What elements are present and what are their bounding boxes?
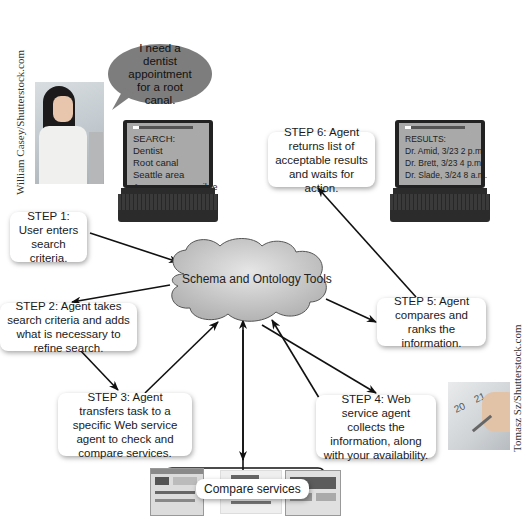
search-laptop-palmrest [118, 210, 218, 222]
search-line: Dentist [133, 145, 203, 157]
photo-laptop-edge [89, 132, 103, 184]
step-3-text: STEP 3: Agent transfers task to a specif… [64, 390, 186, 460]
search-laptop-screen: SEARCH: Dentist Root canal Seattle area … [127, 123, 209, 185]
step-4-text: STEP 4: Web service agent collects the i… [322, 392, 430, 462]
user-photo [35, 82, 104, 184]
step-6-box: STEP 6: Agent returns list of acceptable… [268, 132, 375, 187]
cloud-label: Schema and Ontology Tools [182, 272, 332, 286]
result-line: RESULTS: [405, 133, 475, 145]
step-2-box: STEP 2: Agent takes search criteria and … [0, 303, 137, 351]
calendar-date: 20 [452, 400, 467, 415]
screen-title-bar [405, 126, 465, 129]
search-line: Seattle area [133, 169, 203, 181]
step-5-text: STEP 5: Agent compares and ranks the inf… [383, 294, 480, 350]
screen-title-bar [133, 126, 193, 129]
search-line: Root canal [133, 157, 203, 169]
results-laptop-keyboard [390, 194, 490, 210]
results-laptop-screen: RESULTS: Dr. Amid, 3/23 2 p.m. Dr. Brett… [399, 123, 481, 185]
speech-bubble-tail [108, 88, 138, 112]
results-laptop: RESULTS: Dr. Amid, 3/23 2 p.m. Dr. Brett… [390, 120, 490, 223]
result-line: Dr. Brett, 3/23 4 p.m. [405, 157, 475, 169]
result-line: Dr. Slade, 3/24 8 a.m. [405, 169, 475, 181]
step-3-box: STEP 3: Agent transfers task to a specif… [58, 393, 192, 456]
step-1-text: STEP 1: User enters search criteria. [16, 209, 81, 265]
photo-face [53, 96, 73, 122]
step-5-box: STEP 5: Agent compares and ranks the inf… [377, 298, 486, 346]
photo-hand [482, 392, 510, 432]
search-laptop: SEARCH: Dentist Root canal Seattle area … [118, 120, 218, 223]
step-4-box: STEP 4: Web service agent collects the i… [316, 395, 436, 458]
compare-services-label: Compare services [196, 479, 309, 499]
search-laptop-keyboard [118, 194, 218, 210]
results-laptop-palmrest [390, 210, 490, 222]
step-6-text: STEP 6: Agent returns list of acceptable… [274, 125, 369, 195]
search-line: SEARCH: [133, 133, 203, 145]
photo-shirt [39, 126, 87, 184]
result-line: Dr. Amid, 3/23 2 p.m. [405, 145, 475, 157]
photo-credit-left: William Casey/Shutterstock.com [14, 50, 26, 195]
photo-credit-right: Tomasz Sz/Shutterstock.com [511, 324, 523, 452]
calendar-photo: 20 21 [448, 382, 510, 450]
step-2-text: STEP 2: Agent takes search criteria and … [6, 299, 131, 355]
step-1-box: STEP 1: User enters search criteria. [10, 212, 87, 262]
